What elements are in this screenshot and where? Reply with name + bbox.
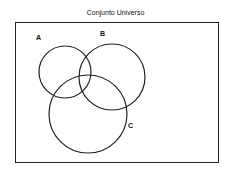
set-b-label: B — [100, 30, 105, 37]
set-a-circle — [39, 46, 91, 98]
set-b-circle — [79, 44, 145, 110]
set-c-label: C — [128, 122, 133, 129]
set-c-circle — [49, 75, 127, 153]
universe-rectangle — [16, 23, 219, 163]
venn-diagram — [0, 0, 231, 171]
set-a-label: A — [36, 34, 41, 41]
